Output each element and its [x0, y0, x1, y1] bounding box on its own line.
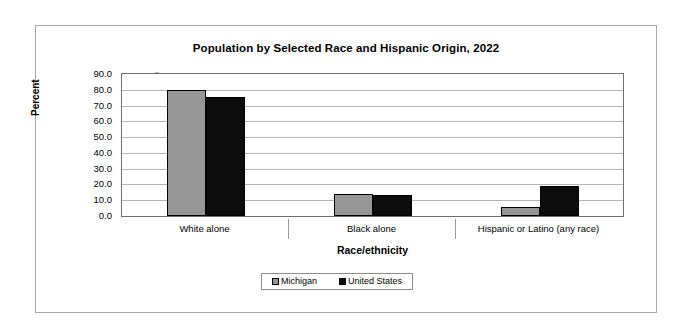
chart-frame: Population by Selected Race and Hispanic…: [35, 25, 657, 313]
bar: [334, 194, 373, 216]
x-axis-separator: [288, 219, 289, 239]
x-axis-separator: [455, 219, 456, 239]
chart-title: Population by Selected Race and Hispanic…: [36, 42, 656, 54]
legend-item: United States: [339, 276, 402, 286]
y-axis-tick-label: 0.0: [99, 210, 112, 221]
bar: [167, 90, 206, 216]
bar: [206, 97, 245, 216]
x-axis-tick-label: White alone: [121, 223, 288, 234]
y-axis-tick-label: 40.0: [94, 146, 113, 157]
y-axis-title: Percent: [30, 79, 41, 116]
bar: [540, 186, 579, 216]
chart-legend: MichiganUnited States: [261, 273, 413, 290]
x-axis-title: Race/ethnicity: [121, 244, 624, 256]
y-axis-tick-label: 20.0: [94, 178, 113, 189]
legend-item: Michigan: [272, 276, 317, 286]
legend-swatch-icon: [339, 278, 346, 285]
x-axis-tick-label: Hispanic or Latino (any race): [455, 223, 622, 234]
y-axis-tick-label: 80.0: [94, 83, 113, 94]
y-axis-tick-labels: 0.010.020.030.040.050.060.070.080.090.0: [72, 67, 116, 223]
legend-swatch-icon: [272, 278, 279, 285]
y-axis-tick-label: 60.0: [94, 115, 113, 126]
bar: [373, 195, 412, 216]
y-axis-tick-label: 70.0: [94, 99, 113, 110]
legend-label: Michigan: [281, 276, 317, 286]
x-axis-tick-labels: White aloneBlack aloneHispanic or Latino…: [121, 219, 624, 239]
legend-label: United States: [348, 276, 402, 286]
plot-area: [121, 73, 624, 217]
y-axis-tick-label: 90.0: [94, 68, 113, 79]
y-axis-tick-label: 30.0: [94, 162, 113, 173]
bar: [501, 207, 540, 216]
y-axis-tick-label: 50.0: [94, 131, 113, 142]
y-axis-tick-label: 10.0: [94, 194, 113, 205]
x-axis-tick-label: Black alone: [288, 223, 455, 234]
